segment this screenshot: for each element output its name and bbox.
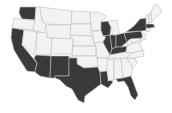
us-states-map: [0, 0, 172, 113]
state-vt: [146, 15, 149, 24]
state-or: [12, 18, 35, 30]
state-ms: [107, 59, 114, 81]
state-sd: [70, 24, 91, 36]
state-fl: [116, 76, 138, 100]
state-nd: [71, 11, 91, 24]
state-az: [34, 55, 51, 78]
state-de: [141, 38, 142, 42]
state-co: [51, 38, 73, 54]
state-ma: [146, 24, 155, 28]
state-nm: [50, 56, 69, 78]
state-nj: [142, 33, 146, 40]
state-ny: [126, 18, 148, 32]
state-wy: [46, 25, 71, 39]
state-shapes: [11, 5, 162, 103]
state-wa: [19, 7, 36, 20]
state-ks: [72, 46, 96, 56]
state-mt: [40, 7, 72, 25]
state-ne: [70, 35, 95, 46]
state-ct: [146, 28, 150, 32]
state-me: [151, 5, 162, 22]
